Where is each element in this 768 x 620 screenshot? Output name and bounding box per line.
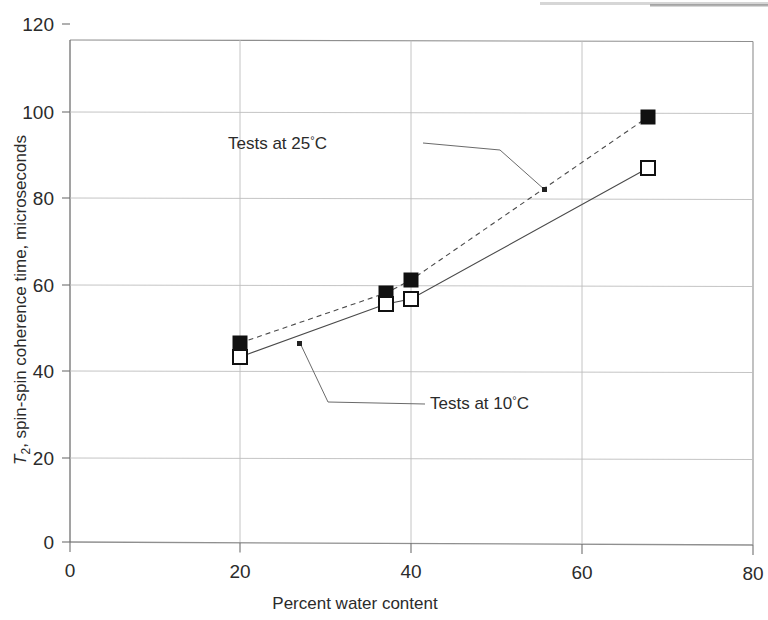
data-point-10c-3 <box>641 161 655 175</box>
x-tick-label-60: 60 <box>571 562 592 583</box>
annotation-25c-label: Tests at 25°C <box>228 134 327 153</box>
data-point-25c-2 <box>404 273 418 287</box>
x-axis-title: Percent water content <box>272 594 438 613</box>
annotation-25c-unit: C <box>315 134 327 153</box>
annotation-25c: Tests at 25°C <box>228 134 547 192</box>
y-tick-label-80: 80 <box>33 188 54 209</box>
y-tick-label-60: 60 <box>33 275 54 296</box>
annotation-10c: Tests at 10°C <box>297 341 529 413</box>
data-point-10c-0 <box>233 350 247 364</box>
y-tick-label-20: 20 <box>33 448 54 469</box>
annotation-10c-text: Tests at 10 <box>430 394 512 413</box>
data-point-10c-1 <box>379 297 393 311</box>
y-axis-title: T2, spin-spin coherence time, microsecon… <box>11 135 33 465</box>
annotation-10c-arrow <box>297 341 302 346</box>
scan-artifact-dark <box>650 4 768 7</box>
data-point-10c-2 <box>404 292 418 306</box>
annotation-25c-text: Tests at 25 <box>228 134 310 153</box>
y-axis-ticks <box>62 24 70 542</box>
y-axis-title-rest: , spin-spin coherence time, microseconds <box>11 135 30 448</box>
series-line-10c <box>240 168 648 357</box>
chart-figure: 120 100 80 60 40 20 0 0 20 40 60 80 Perc… <box>0 0 768 620</box>
annotation-10c-label: Tests at 10°C <box>430 394 529 413</box>
y-tick-label-100: 100 <box>22 102 54 123</box>
annotation-10c-unit: C <box>517 394 529 413</box>
x-tick-label-0: 0 <box>65 560 76 581</box>
annotation-25c-arrow <box>542 187 547 192</box>
x-tick-label-80: 80 <box>742 563 763 584</box>
chart-canvas: 120 100 80 60 40 20 0 0 20 40 60 80 Perc… <box>0 0 768 620</box>
data-point-25c-3 <box>641 110 655 124</box>
x-tick-label-40: 40 <box>400 561 421 582</box>
svg-text:T2, spin-spin coherence time,: T2, spin-spin coherence time, microsecon… <box>11 135 33 465</box>
annotation-25c-leader <box>423 143 545 190</box>
y-tick-label-120: 120 <box>22 14 54 35</box>
data-point-25c-0 <box>233 336 247 350</box>
x-tick-label-20: 20 <box>229 561 250 582</box>
y-tick-label-40: 40 <box>33 361 54 382</box>
series-markers-10c <box>233 161 655 364</box>
annotation-10c-leader <box>300 343 425 404</box>
y-tick-label-0: 0 <box>43 532 54 553</box>
